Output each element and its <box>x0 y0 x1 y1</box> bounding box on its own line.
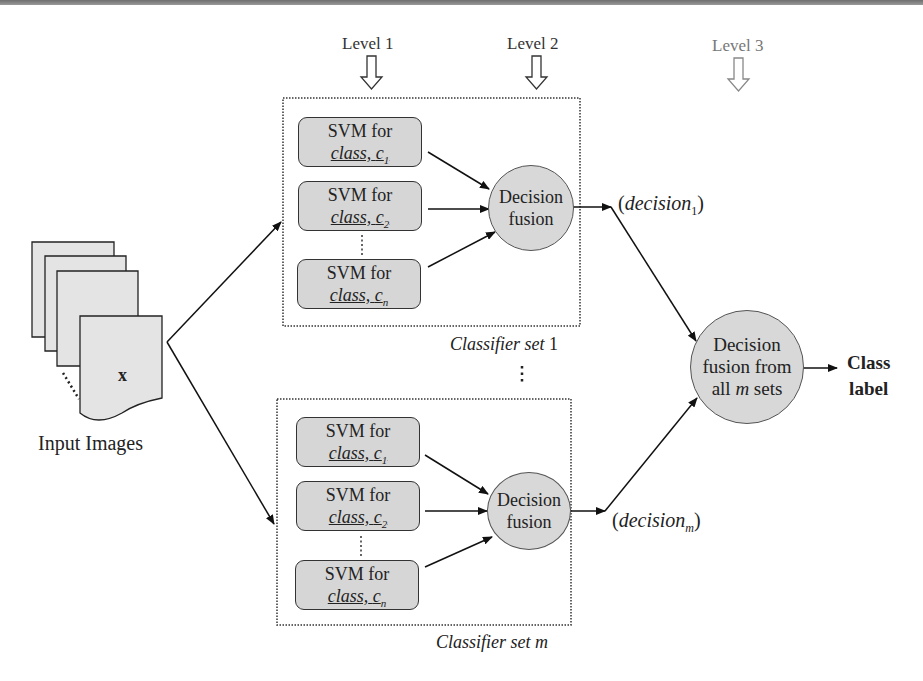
line3-post: sets <box>749 378 782 399</box>
svm-box-set1-cn: SVM for class, cn <box>297 259 421 309</box>
svm-title: SVM for <box>296 563 418 585</box>
paren-open: ( <box>612 509 619 531</box>
svm-title: SVM for <box>297 420 419 442</box>
svm-box-setm-cn: SVM for class, cn <box>295 560 419 610</box>
fusion-line1: Decision <box>497 489 561 511</box>
class-label-line2: label <box>847 376 890 402</box>
fusion-line1: Decision <box>499 186 563 208</box>
caption-prefix: Classifier set <box>436 632 531 652</box>
decision-sub: m <box>685 521 694 535</box>
svm-box-setm-c2: SVM for class, c2 <box>296 481 420 531</box>
decision-fusion-set1: Decisionfusion <box>488 165 574 251</box>
paren-close: ) <box>697 192 704 214</box>
svm-var: c <box>374 507 382 527</box>
decision-m-output: (decisionm) <box>612 509 701 536</box>
decision-word: decision <box>619 509 686 531</box>
fusion-line2: fusion <box>499 208 563 230</box>
svm-title: SVM for <box>297 484 419 506</box>
svm-class-text: class, <box>329 443 370 463</box>
line3-pre: all <box>712 378 736 399</box>
svm-var: c <box>375 285 383 305</box>
caption-index: 1 <box>549 334 558 354</box>
svm-box-set1-c1: SVM for class, c1 <box>298 117 422 167</box>
svm-var: c <box>376 207 384 227</box>
svm-title: SVM for <box>298 262 420 284</box>
class-label-output: Class label <box>847 350 890 402</box>
final-fusion-line1: Decision <box>702 334 791 356</box>
svm-class-text: class, <box>331 207 372 227</box>
svm-box-set1-c2: SVM for class, c2 <box>298 181 422 231</box>
input-symbol-x: x <box>118 365 127 386</box>
paren-open: ( <box>618 192 625 214</box>
final-decision-fusion: Decision fusion from all m sets <box>690 310 804 424</box>
svm-title: SVM for <box>299 184 421 206</box>
level-1-label: Level 1 <box>342 34 393 54</box>
fusion-line2: fusion <box>497 511 561 533</box>
paren-close: ) <box>694 509 701 531</box>
svm-box-setm-c1: SVM for class, c1 <box>296 417 420 467</box>
svm-sub: n <box>383 296 389 308</box>
svm-sub: n <box>381 597 387 609</box>
svm-sub: 1 <box>382 454 388 466</box>
classifier-set-1-caption: Classifier set 1 <box>450 334 558 355</box>
caption-prefix: Classifier set <box>450 334 545 354</box>
decision-word: decision <box>625 192 692 214</box>
line3-var: m <box>735 378 749 399</box>
final-fusion-line3: all m sets <box>702 378 791 400</box>
svm-var: c <box>373 586 381 606</box>
svm-sub: 2 <box>384 218 390 230</box>
caption-index: m <box>535 632 548 652</box>
svm-class-text: class, <box>331 143 372 163</box>
svm-title: SVM for <box>299 120 421 142</box>
classifier-set-m-caption: Classifier set m <box>436 632 548 653</box>
svm-var: c <box>374 443 382 463</box>
level-2-label: Level 2 <box>507 34 558 54</box>
svm-class-text: class, <box>328 586 369 606</box>
svm-var: c <box>376 143 384 163</box>
final-fusion-line2: fusion from <box>702 356 791 378</box>
svm-sub: 2 <box>382 518 388 530</box>
svm-class-text: class, <box>329 507 370 527</box>
decision-fusion-setm: Decisionfusion <box>487 472 571 550</box>
level-3-label: Level 3 <box>712 36 763 56</box>
decision-1-output: (decision1) <box>618 192 704 219</box>
class-label-line1: Class <box>847 350 890 376</box>
svm-sub: 1 <box>384 154 390 166</box>
input-images-label: Input Images <box>38 432 143 455</box>
svm-class-text: class, <box>330 285 371 305</box>
